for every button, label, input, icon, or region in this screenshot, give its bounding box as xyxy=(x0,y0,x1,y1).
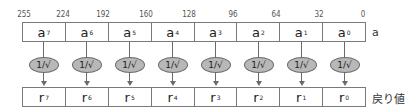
bit-label-255: 255 xyxy=(17,10,31,19)
element-base: a xyxy=(295,25,303,40)
element-index: 1 xyxy=(304,29,308,36)
element-index: 0 xyxy=(345,94,349,101)
rsqrt-op: 1/√ xyxy=(29,57,59,73)
bit-label-96: 96 xyxy=(228,10,237,19)
arrow-down-icon xyxy=(299,81,305,86)
arrow-down-icon xyxy=(41,81,47,86)
input-element: a1 xyxy=(280,23,323,41)
input-element: a3 xyxy=(195,23,238,41)
element-index: 3 xyxy=(218,29,222,36)
input-vector-label: a xyxy=(372,26,379,39)
arrow-down-icon xyxy=(84,81,90,86)
output-element: r7 xyxy=(23,88,66,106)
element-base: r xyxy=(125,90,130,105)
element-index: 2 xyxy=(260,94,264,101)
element-index: 4 xyxy=(174,94,178,101)
input-element: a2 xyxy=(237,23,280,41)
arrow-down-icon xyxy=(342,81,348,86)
input-element: a0 xyxy=(323,23,365,41)
rsqrt-op: 1/√ xyxy=(115,57,145,73)
element-index: 5 xyxy=(131,94,135,101)
input-element: a5 xyxy=(109,23,152,41)
element-index: 7 xyxy=(45,94,49,101)
bit-label-128: 128 xyxy=(182,10,196,19)
element-base: a xyxy=(80,25,88,40)
element-base: a xyxy=(338,25,346,40)
element-base: r xyxy=(339,90,344,105)
output-element: r6 xyxy=(66,88,109,106)
bit-label-0: 0 xyxy=(361,10,366,19)
arrow-down-icon xyxy=(213,81,219,86)
element-base: r xyxy=(253,90,258,105)
element-base: a xyxy=(209,25,217,40)
element-index: 4 xyxy=(175,29,179,36)
output-element: r2 xyxy=(237,88,280,106)
output-element: r0 xyxy=(323,88,365,106)
element-base: a xyxy=(252,25,260,40)
element-base: r xyxy=(82,90,87,105)
element-index: 0 xyxy=(347,29,351,36)
rsqrt-op: 1/√ xyxy=(72,57,102,73)
rsqrt-op: 1/√ xyxy=(287,57,317,73)
element-base: a xyxy=(123,25,131,40)
arrow-down-icon xyxy=(170,81,176,86)
rsqrt-op: 1/√ xyxy=(158,57,188,73)
arrow-down-icon xyxy=(127,81,133,86)
input-element: a4 xyxy=(152,23,195,41)
element-base: a xyxy=(38,25,46,40)
element-index: 2 xyxy=(261,29,265,36)
bit-label-32: 32 xyxy=(314,10,323,19)
element-base: r xyxy=(39,90,44,105)
element-index: 7 xyxy=(47,29,51,36)
element-index: 1 xyxy=(302,94,306,101)
arrow-down-icon xyxy=(256,81,262,86)
output-element: r5 xyxy=(109,88,152,106)
output-element: r1 xyxy=(280,88,323,106)
output-vector-label: 戻り値 xyxy=(372,90,405,106)
bit-label-192: 192 xyxy=(96,10,110,19)
input-vector-a: a7 a6 a5 a4 a3 a2 a1 a0 xyxy=(22,22,366,42)
element-index: 6 xyxy=(88,94,92,101)
rsqrt-op: 1/√ xyxy=(244,57,274,73)
bit-label-224: 224 xyxy=(56,10,70,19)
input-element: a7 xyxy=(23,23,66,41)
element-base: r xyxy=(296,90,301,105)
element-base: a xyxy=(166,25,174,40)
element-base: r xyxy=(167,90,172,105)
output-element: r4 xyxy=(152,88,195,106)
bit-label-64: 64 xyxy=(271,10,280,19)
element-index: 6 xyxy=(89,29,93,36)
output-vector-r: r7 r6 r5 r4 r3 r2 r1 r0 xyxy=(22,87,366,107)
rsqrt-op: 1/√ xyxy=(201,57,231,73)
bit-label-160: 160 xyxy=(139,10,153,19)
element-index: 3 xyxy=(217,94,221,101)
input-element: a6 xyxy=(66,23,109,41)
element-base: r xyxy=(210,90,215,105)
output-element: r3 xyxy=(195,88,238,106)
rsqrt-op: 1/√ xyxy=(330,57,360,73)
element-index: 5 xyxy=(132,29,136,36)
